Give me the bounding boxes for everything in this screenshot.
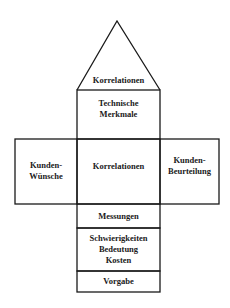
center-correlations-label: Korrelationen — [77, 139, 160, 193]
house-of-quality-diagram: Korrelationen Technische Merkmale Kunden… — [0, 0, 230, 308]
measurements-label: Messungen — [77, 204, 160, 228]
roof-label: Korrelationen — [77, 71, 160, 89]
customer-rating-label: Kunden- Beurteilung — [160, 139, 219, 193]
technical-features-label: Technische Merkmale — [77, 96, 160, 122]
customer-wishes-label: Kunden- Wünsche — [15, 139, 77, 202]
difficulty-importance-cost-label: Schwierigkeiten Bedeutung Kosten — [77, 228, 160, 271]
target-label: Vorgabe — [77, 271, 160, 292]
